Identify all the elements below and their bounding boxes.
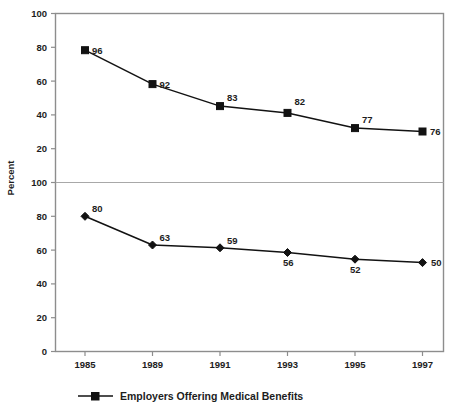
chart-container: Percent 100 80 60 xyxy=(0,0,454,408)
data-label: 83 xyxy=(227,92,238,103)
data-point-marker xyxy=(217,103,224,110)
data-label: 56 xyxy=(283,257,294,268)
legend-square-icon xyxy=(92,393,100,401)
y-axis-title-group: Percent xyxy=(5,160,16,196)
y-tick-label: 0 xyxy=(42,346,47,357)
data-label: 82 xyxy=(295,96,306,107)
data-point-marker xyxy=(419,128,426,135)
y-tick-label: 20 xyxy=(36,312,47,323)
y-tick-label: 40 xyxy=(36,278,47,289)
y-tick-label: 40 xyxy=(36,109,47,120)
data-point-marker xyxy=(149,81,156,88)
data-label: 52 xyxy=(350,264,361,275)
y-tick-label: 20 xyxy=(36,143,47,154)
data-label: 80 xyxy=(92,203,103,214)
y-tick-label: 80 xyxy=(36,42,47,53)
x-tick-label: 1985 xyxy=(74,359,96,370)
y-tick-label: 80 xyxy=(36,211,47,222)
data-point-marker xyxy=(82,47,89,54)
x-tick-label: 1995 xyxy=(344,359,366,370)
x-tick-label: 1993 xyxy=(277,359,298,370)
y-tick-label: 60 xyxy=(36,245,47,256)
legend-label: Employers Offering Medical Benefits xyxy=(120,390,303,402)
x-tick-label: 1997 xyxy=(412,359,433,370)
data-point-marker xyxy=(284,109,291,116)
y-tick-label: 100 xyxy=(31,8,47,19)
chart-background xyxy=(0,0,454,408)
data-label: 63 xyxy=(160,232,171,243)
x-tick-label: 1989 xyxy=(142,359,163,370)
data-label: 92 xyxy=(160,79,171,90)
data-point-marker xyxy=(352,125,359,132)
y-axis-title: Percent xyxy=(5,160,16,196)
y-tick-label: 100 xyxy=(31,177,47,188)
x-tick-label: 1991 xyxy=(209,359,231,370)
data-label: 77 xyxy=(362,114,373,125)
data-label: 50 xyxy=(431,257,442,268)
line-chart-svg: Percent 100 80 60 xyxy=(0,0,454,408)
y-tick-label: 60 xyxy=(36,76,47,87)
data-label: 96 xyxy=(92,45,103,56)
data-label: 76 xyxy=(430,126,441,137)
data-label: 59 xyxy=(227,235,238,246)
